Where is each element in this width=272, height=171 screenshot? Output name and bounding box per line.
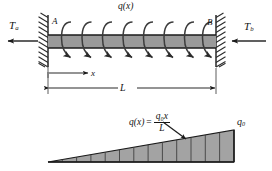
left-wall-support xyxy=(39,13,49,67)
figure-vector-layer xyxy=(0,0,272,171)
label-length: L xyxy=(120,83,126,93)
formula-numerator: q₀x xyxy=(154,112,170,122)
formula-lhs: q(x) xyxy=(129,118,144,128)
formula-equals: = xyxy=(146,118,151,128)
formula-denominator: L xyxy=(157,123,166,133)
label-torque-a: Ta xyxy=(9,20,19,32)
label-support-b: B xyxy=(207,18,213,27)
label-torque-b: Tb xyxy=(244,21,254,33)
right-wall-support xyxy=(216,13,226,67)
label-peak-intensity: q0 xyxy=(237,117,245,127)
figure-canvas: Ta Tb A B q(x) x L q0 q(x) = q₀x L xyxy=(0,0,272,171)
formula-fraction: q₀x L xyxy=(154,112,170,133)
length-dimension xyxy=(48,68,216,94)
shaft-bar xyxy=(48,35,216,48)
label-support-a: A xyxy=(52,17,58,26)
x-axis-dimension xyxy=(48,63,88,78)
label-x-axis: x xyxy=(91,69,95,78)
load-triangle-diagram xyxy=(48,130,234,162)
label-distributed-torque: q(x) xyxy=(118,2,133,12)
load-formula: q(x) = q₀x L xyxy=(129,112,170,133)
